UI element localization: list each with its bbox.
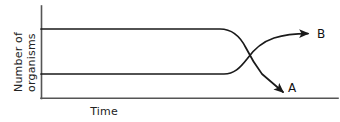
curve-label-b: B <box>317 28 325 40</box>
curve-b-path <box>41 34 308 74</box>
plot-area <box>0 0 340 122</box>
x-axis-label: Time <box>0 106 274 117</box>
y-axis-label-line-2: organisms <box>26 33 37 92</box>
curve-label-a: A <box>288 82 296 94</box>
population-graph-figure: Number of organisms Time A B <box>0 0 340 122</box>
y-axis-label-line-1: Number of <box>13 32 24 92</box>
